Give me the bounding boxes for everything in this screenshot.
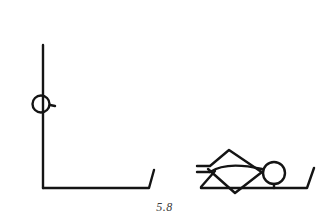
standing-head-icon: [33, 96, 50, 113]
lying-figure: [197, 150, 314, 193]
lying-head-icon: [263, 162, 285, 184]
standing-figure: [33, 45, 155, 188]
lying-torso-curve: [210, 166, 262, 172]
figure-caption: 5.8: [0, 200, 329, 215]
figure-illustration: [0, 0, 329, 224]
lying-diamond-left: [201, 171, 215, 187]
lying-lower-diamond: [208, 169, 262, 193]
lying-upper-limb: [197, 150, 263, 173]
standing-base-line: [43, 170, 154, 188]
standing-nose-tick: [50, 105, 55, 106]
